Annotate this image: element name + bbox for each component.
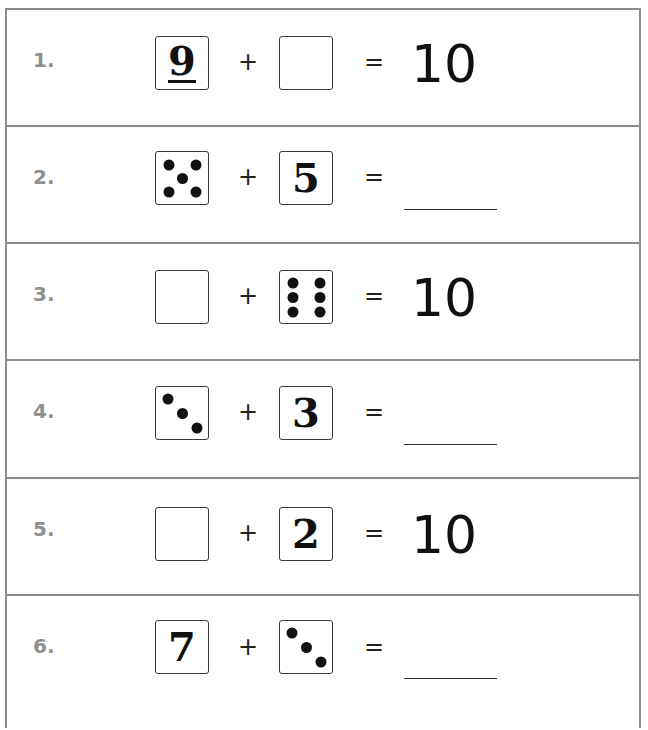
plus-sign: + (238, 48, 258, 76)
plus-sign: + (238, 398, 258, 426)
answer-box-empty[interactable] (155, 270, 209, 324)
equals-sign: = (364, 398, 384, 426)
row-number: 3. (33, 282, 55, 306)
problem-row-3: 3. + = 10 (7, 244, 639, 361)
plus-sign: + (238, 519, 258, 547)
problem-row-6: 6. 7 + = (7, 596, 639, 730)
equals-sign: = (364, 282, 384, 310)
problem-row-1: 1. 9 + = 10 (7, 10, 639, 127)
addend-box-digit: 7 (155, 620, 209, 674)
dice-box-six (279, 270, 333, 324)
answer-blank-line[interactable] (404, 209, 497, 210)
equals-sign: = (364, 163, 384, 191)
addend-box-digit: 2 (279, 507, 333, 561)
equals-sign: = (364, 519, 384, 547)
plus-sign: + (238, 633, 258, 661)
dice-box-three (279, 620, 333, 674)
addend-box-digit: 9 (155, 36, 209, 90)
answer-blank-line[interactable] (404, 678, 497, 679)
dice-six-icon (281, 272, 332, 323)
plus-sign: + (238, 282, 258, 310)
row-number: 2. (33, 165, 55, 189)
addend-digit: 3 (292, 393, 320, 433)
addend-box-digit: 3 (279, 386, 333, 440)
dice-box-five (155, 151, 209, 205)
row-number: 5. (33, 517, 55, 541)
row-number: 1. (33, 48, 55, 72)
answer-box-empty[interactable] (155, 507, 209, 561)
addend-digit: 5 (292, 158, 320, 198)
dice-five-icon (157, 153, 208, 204)
equals-sign: = (364, 48, 384, 76)
problem-row-2: 2. + 5 = (7, 127, 639, 244)
equals-sign: = (364, 633, 384, 661)
addend-digit: 9 (168, 43, 196, 83)
addend-box-digit: 5 (279, 151, 333, 205)
problem-row-4: 4. + 3 = (7, 361, 639, 479)
addend-digit: 2 (292, 514, 320, 554)
addend-digit: 7 (168, 627, 196, 667)
row-number: 4. (33, 399, 55, 423)
worksheet: 1. 9 + = 10 2. + 5 = 3. + (5, 8, 641, 728)
sum-value: 10 (411, 509, 477, 561)
sum-value: 10 (411, 38, 477, 90)
dice-box-three (155, 386, 209, 440)
answer-box-empty[interactable] (279, 36, 333, 90)
dice-three-icon (157, 388, 208, 439)
sum-value: 10 (411, 272, 477, 324)
row-number: 6. (33, 634, 55, 658)
answer-blank-line[interactable] (404, 444, 497, 445)
dice-three-icon (281, 622, 332, 673)
plus-sign: + (238, 163, 258, 191)
problem-row-5: 5. + 2 = 10 (7, 479, 639, 596)
